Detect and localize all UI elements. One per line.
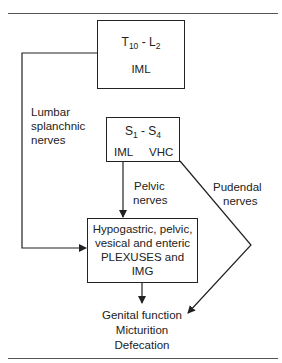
- sacral-segments: S1 - S4: [107, 124, 179, 138]
- lumbar-splanchnic-label-3: nerves: [31, 133, 66, 147]
- plexuses-line-4: IMG: [88, 264, 197, 278]
- pelvic-label-1: Pelvic: [134, 179, 165, 193]
- outcome-micturition: Micturition: [92, 323, 192, 337]
- sacral-nucleus-iml: IML: [114, 145, 133, 159]
- bottom-rule: [8, 358, 278, 359]
- lumbar-splanchnic-label-2: splanchnic: [31, 119, 85, 133]
- outcome-defecation: Defecation: [92, 338, 192, 352]
- lumbar-splanchnic-label-1: Lumbar: [31, 105, 70, 119]
- thoracolumbar-segments: T10 - L2: [98, 35, 184, 49]
- thoracolumbar-node: T10 - L2 IML: [97, 20, 185, 89]
- sacral-nucleus-vhc: VHC: [149, 145, 173, 159]
- sacral-node: S1 - S4 IML VHC: [106, 117, 180, 162]
- outcome-genital-function: Genital function: [92, 308, 192, 322]
- plexuses-line-2: vesical and enteric: [88, 236, 197, 250]
- pudendal-label-1: Pudendal: [213, 180, 262, 194]
- plexuses-line-3: PLEXUSES and: [88, 250, 197, 264]
- plexuses-node: Hypogastric, pelvic, vesical and enteric…: [87, 218, 198, 283]
- lumbar-splanchnic-connector: [22, 53, 97, 248]
- plexuses-line-1: Hypogastric, pelvic,: [88, 222, 197, 236]
- pudendal-label-2: nerves: [223, 194, 258, 208]
- thoracolumbar-nucleus: IML: [98, 62, 184, 76]
- pelvic-label-2: nerves: [133, 193, 168, 207]
